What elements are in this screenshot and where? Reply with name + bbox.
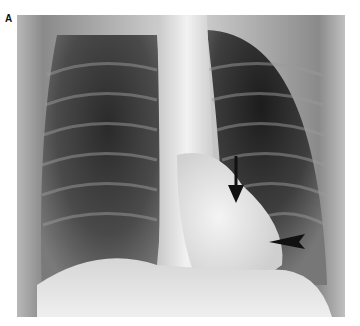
chest-xray-image bbox=[17, 15, 345, 317]
panel-label: A bbox=[5, 13, 12, 24]
